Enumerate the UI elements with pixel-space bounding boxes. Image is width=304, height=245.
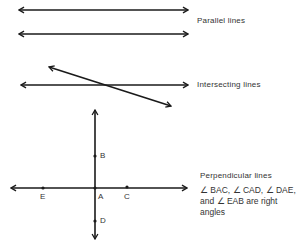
intersecting-lines-label: Intersecting lines <box>197 80 261 89</box>
intersecting-line-slanted <box>49 67 171 106</box>
point-e-dot <box>41 186 44 189</box>
description-line-2: and ∠ EAB are right <box>200 196 304 207</box>
point-b-label: B <box>100 151 105 160</box>
point-b-dot <box>93 154 96 157</box>
right-angles-description: ∠ BAC, ∠ CAD, ∠ DAE, and ∠ EAB are right… <box>200 185 304 218</box>
point-a-label: A <box>98 192 103 201</box>
point-c-dot <box>125 185 128 188</box>
description-line-1: ∠ BAC, ∠ CAD, ∠ DAE, <box>200 185 304 196</box>
parallel-lines-label: Parallel lines <box>197 16 245 25</box>
point-a-dot <box>93 186 96 189</box>
description-line-3: angles <box>200 207 304 218</box>
point-d-dot <box>93 219 96 222</box>
point-c-label: C <box>124 192 130 201</box>
point-e-label: E <box>40 192 45 201</box>
point-d-label: D <box>100 216 106 225</box>
perpendicular-lines-label: Perpendicular lines <box>200 171 272 180</box>
